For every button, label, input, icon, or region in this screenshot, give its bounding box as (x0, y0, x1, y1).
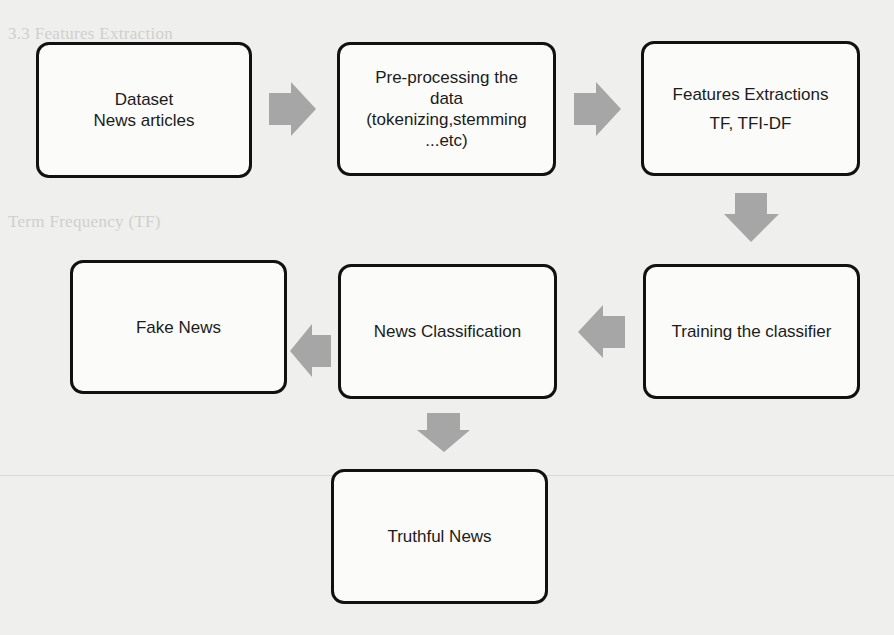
node-text: ...etc) (425, 130, 468, 151)
node-truthful-news: Truthful News (331, 469, 548, 604)
node-text: Features Extractions (673, 84, 829, 105)
node-text: Dataset (115, 89, 174, 110)
node-classification: News Classification (338, 264, 557, 399)
node-features: Features Extractions TF, TFI-DF (641, 41, 860, 176)
arrow-down-icon (417, 413, 471, 453)
node-preprocessing: Pre-processing the data (tokenizing,stem… (337, 42, 556, 176)
node-text: News Classification (374, 321, 521, 342)
arrow-right-icon (574, 82, 622, 138)
arrow-left-icon (578, 305, 626, 359)
arrow-down-icon (724, 193, 780, 243)
node-text: Fake News (136, 317, 221, 338)
node-text: Pre-processing the (375, 67, 518, 88)
node-text: Truthful News (387, 526, 491, 547)
node-dataset: Dataset News articles (36, 42, 252, 178)
node-text: News articles (93, 110, 194, 131)
node-text: data (430, 88, 463, 109)
arrow-right-icon (269, 82, 317, 138)
node-training: Training the classifier (643, 264, 860, 399)
node-fake-news: Fake News (70, 260, 287, 394)
node-text: Training the classifier (672, 321, 832, 342)
node-text: TF, TFI-DF (710, 113, 792, 134)
node-text: (tokenizing,stemming (366, 109, 527, 130)
arrow-left-icon (290, 324, 332, 378)
